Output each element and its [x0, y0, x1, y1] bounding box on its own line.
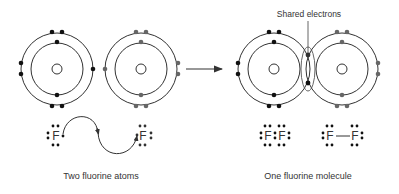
shared-electron-bottom: [306, 81, 311, 86]
inner-shell: [248, 43, 300, 95]
lewis-molecule-bond: F F: [322, 125, 364, 147]
left-caption: Two fluorine atoms: [63, 171, 139, 181]
fluorine-bonding-diagram: Shared electrons F F Two fluorine atoms …: [0, 0, 399, 194]
svg-text:F: F: [351, 129, 358, 143]
svg-text:F: F: [264, 129, 271, 143]
electron-transfer-curve: [63, 117, 137, 154]
electrons-molecule-left: [236, 30, 282, 109]
svg-text:F: F: [326, 129, 333, 143]
lewis-left-atom: F: [47, 125, 65, 147]
inner-shell: [31, 43, 83, 95]
lewis-molecule-dots: F F: [260, 125, 291, 147]
svg-text:F: F: [139, 129, 146, 143]
shared-electron-top: [306, 53, 311, 58]
svg-text:F: F: [278, 129, 285, 143]
right-caption: One fluorine molecule: [264, 171, 352, 181]
electrons-molecule-right: [335, 30, 381, 109]
nucleus: [52, 64, 62, 74]
lewis-right-atom: F: [136, 125, 153, 147]
nucleus: [269, 64, 279, 74]
electrons-atom-left: [19, 30, 96, 109]
nucleus: [136, 64, 146, 74]
nucleus: [337, 64, 347, 74]
svg-text:F: F: [52, 129, 59, 143]
electrons-atom-right: [103, 30, 181, 109]
inner-shell: [115, 43, 167, 95]
shared-electrons-label: Shared electrons: [277, 9, 341, 19]
inner-shell: [316, 43, 368, 95]
